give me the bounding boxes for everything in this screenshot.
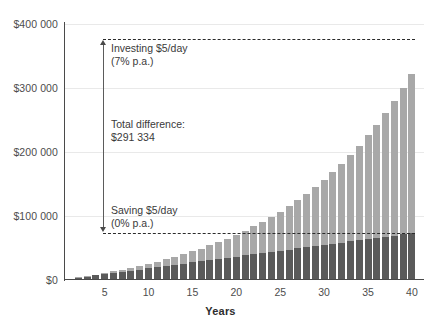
bar-segment-savings: [286, 250, 293, 280]
bar-segment-savings: [356, 240, 363, 280]
bar: [163, 259, 170, 280]
bar-segment-savings: [268, 252, 275, 280]
bar: [268, 217, 275, 280]
bar-segment-savings: [242, 255, 249, 280]
difference-arrow-line: [103, 42, 104, 230]
bar-segment-savings: [224, 258, 231, 280]
bar: [373, 125, 380, 280]
bar: [250, 226, 257, 280]
y-tick-label: $400 000: [13, 18, 58, 30]
bar: [224, 239, 231, 280]
y-axis-spine: [64, 22, 65, 281]
gridline: [64, 24, 424, 25]
y-tick-label: $100 000: [13, 210, 58, 222]
bar-segment-savings: [321, 245, 328, 280]
bar-segment-savings: [347, 241, 354, 280]
investing-annotation-line2: (7% p.a.): [111, 55, 187, 68]
x-tick-label: 20: [230, 286, 242, 298]
bar-segment-savings: [408, 233, 415, 280]
bar: [259, 222, 266, 280]
y-tick-label: $0: [46, 274, 58, 286]
bar-segment-savings: [163, 266, 170, 280]
saving-annotation-line1: Saving $5/day: [111, 204, 178, 216]
x-tick-label: 5: [102, 286, 108, 298]
bar-segment-savings: [312, 246, 319, 280]
x-tick-label: 10: [143, 286, 155, 298]
bar-segment-savings: [259, 253, 266, 280]
investing-annotation-line1: Investing $5/day: [111, 42, 187, 54]
bar-segment-savings: [206, 260, 213, 280]
x-tick-label: 25: [274, 286, 286, 298]
y-axis-tick-labels: $400 000 $300 000 $200 000 $100 000 $0: [0, 0, 58, 336]
bar-segment-savings: [338, 243, 345, 280]
bar-segment-savings: [198, 261, 205, 280]
bar-segment-savings: [391, 236, 398, 280]
x-tick-label: 15: [187, 286, 199, 298]
saving-total-reference-line: [103, 233, 415, 234]
bar: [391, 101, 398, 280]
bar-segment-savings: [303, 247, 310, 280]
bar: [286, 206, 293, 280]
bar-segment-savings: [233, 257, 240, 280]
bar: [136, 266, 143, 280]
bar-segment-savings: [329, 244, 336, 280]
y-tick-label: $200 000: [13, 146, 58, 158]
bar-segment-savings: [277, 251, 284, 280]
bar: [303, 194, 310, 280]
bar: [294, 200, 301, 280]
bar-segment-savings: [250, 254, 257, 280]
bar: [365, 135, 372, 280]
saving-annotation: Saving $5/day (0% p.a.): [111, 204, 178, 230]
bar-segment-savings: [400, 234, 407, 280]
investing-vs-saving-chart: $400 000 $300 000 $200 000 $100 000 $0 5…: [0, 0, 441, 336]
x-tick-label: 30: [318, 286, 330, 298]
bar: [356, 146, 363, 281]
bar-segment-savings: [189, 262, 196, 280]
bar: [329, 172, 336, 280]
bar: [233, 235, 240, 280]
y-tick-label: $300 000: [13, 82, 58, 94]
total-difference-annotation-line2: $291 334: [111, 131, 185, 144]
bar-segment-savings: [365, 239, 372, 280]
saving-annotation-line2: (0% p.a.): [111, 217, 178, 230]
bar-segment-savings: [171, 265, 178, 280]
bar-segment-savings: [382, 237, 389, 280]
bar: [171, 257, 178, 280]
x-tick-label: 35: [362, 286, 374, 298]
bar: [198, 249, 205, 280]
bar: [400, 88, 407, 280]
gridline: [64, 88, 424, 89]
bar: [408, 74, 415, 280]
bar: [215, 242, 222, 280]
x-axis-title: Years: [0, 305, 441, 317]
investing-annotation: Investing $5/day (7% p.a.): [111, 42, 187, 68]
bar: [145, 264, 152, 280]
bar: [347, 155, 354, 280]
bar-segment-savings: [294, 248, 301, 280]
bar: [206, 245, 213, 280]
bar-segment-savings: [373, 238, 380, 280]
bar: [154, 262, 161, 280]
bar: [321, 180, 328, 280]
bar-segment-savings: [215, 259, 222, 280]
difference-arrow-head-up: [100, 40, 106, 45]
bar: [382, 113, 389, 280]
bar: [189, 251, 196, 280]
x-tick-label: 40: [406, 286, 418, 298]
total-difference-annotation: Total difference: $291 334: [111, 118, 185, 144]
bar: [338, 164, 345, 280]
total-difference-annotation-line1: Total difference:: [111, 118, 185, 130]
bar-segment-savings: [180, 264, 187, 280]
bar: [180, 254, 187, 280]
bar: [277, 212, 284, 280]
difference-arrow-head-down: [100, 227, 106, 232]
x-axis-spine: [64, 279, 424, 280]
investing-total-reference-line: [103, 39, 415, 40]
bar: [242, 231, 249, 280]
